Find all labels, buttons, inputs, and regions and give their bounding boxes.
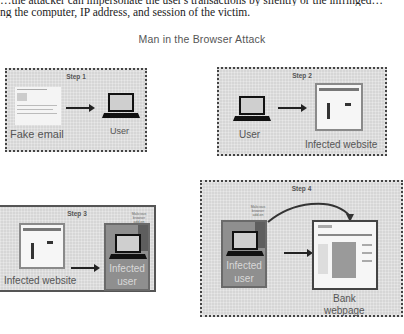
laptop-icon: [226, 230, 264, 258]
step-1-label: Step 1: [7, 73, 145, 80]
bank-webpage-thumbnail: [312, 220, 378, 290]
laptop-icon: [102, 92, 140, 120]
infected-website-thumbnail: [315, 83, 363, 131]
arrow-icon: [71, 267, 95, 269]
step-2-panel: Step 2 User Infected website: [217, 67, 387, 156]
arrow-icon: [66, 107, 90, 109]
bank-label-line-1: Bank: [333, 293, 356, 304]
infected-user-box: Infected user: [104, 223, 150, 291]
user-label: User: [239, 129, 260, 140]
laptop-icon: [233, 95, 271, 123]
infected-label-line-2: user: [223, 273, 265, 285]
figure-title: Man in the Browser Attack: [0, 33, 404, 45]
arrow-icon: [278, 107, 302, 109]
infected-website-label: Infected website: [305, 139, 377, 150]
fake-email-thumbnail: [15, 87, 61, 125]
infected-label-line-1: Infected: [106, 263, 148, 275]
addon-note: Malicious browser add-on: [250, 205, 266, 217]
infected-label-line-1: Infected: [223, 260, 265, 272]
arrow-icon: [284, 252, 308, 254]
step-4-panel: Step 4 Malicious browser add-on Infected…: [200, 180, 403, 317]
step-2-label: Step 2: [219, 72, 385, 79]
step-3-panel: Step 3 Malicious browser add-on Infected…: [0, 205, 156, 292]
user-label: User: [110, 126, 129, 136]
step-1-panel: Step 1 Fake email User: [5, 68, 147, 152]
infected-label-line-2: user: [106, 276, 148, 288]
body-text-line-2: ng the computer, IP address, and session…: [0, 6, 404, 18]
infected-user-box: Infected user: [221, 220, 267, 288]
laptop-icon: [109, 233, 147, 261]
bank-label-line-2: webpage: [324, 305, 365, 316]
fake-email-label: Fake email: [10, 128, 64, 140]
infected-website-thumbnail: [19, 223, 65, 269]
infected-website-label: Infected website: [4, 275, 76, 286]
